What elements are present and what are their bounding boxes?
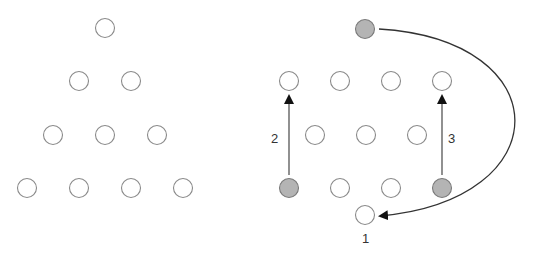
move-2-label: 2 xyxy=(271,131,278,146)
coin-icon xyxy=(280,72,299,91)
coin-icon xyxy=(382,179,401,198)
coin-icon xyxy=(408,126,427,145)
coin-icon xyxy=(70,179,89,198)
coin-icon xyxy=(122,179,141,198)
move-1-label: 1 xyxy=(362,231,369,246)
moved-coin-icon xyxy=(433,179,452,198)
coin-icon xyxy=(331,72,350,91)
initial-triangle xyxy=(18,19,193,198)
coin-icon xyxy=(96,19,115,38)
moved-coin-icon xyxy=(280,179,299,198)
moved-coin-icon xyxy=(356,20,375,39)
coin-icon xyxy=(44,126,63,145)
move-3-label: 3 xyxy=(448,131,455,146)
coin-icon xyxy=(96,126,115,145)
coin-icon xyxy=(148,126,167,145)
coin-icon xyxy=(357,126,376,145)
coin-icon xyxy=(433,72,452,91)
coin-icon xyxy=(122,72,141,91)
coin-triangle-diagram: 1 2 3 xyxy=(0,0,544,255)
rearranged-triangle xyxy=(280,20,452,225)
coin-icon xyxy=(382,72,401,91)
coin-icon xyxy=(306,126,325,145)
coin-icon xyxy=(70,72,89,91)
coin-icon xyxy=(331,179,350,198)
coin-icon xyxy=(356,206,375,225)
coin-icon xyxy=(18,179,37,198)
coin-icon xyxy=(174,179,193,198)
